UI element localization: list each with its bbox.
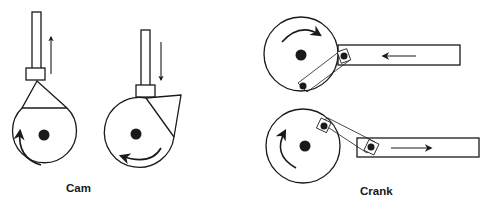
cam-falling: [104, 30, 181, 167]
crank-pushing: [266, 109, 479, 183]
crank-label: Crank: [360, 185, 393, 197]
crank-pin: [300, 83, 307, 90]
crank-pulling: [264, 17, 460, 92]
wheel-axle: [300, 141, 311, 152]
cam-rising: [13, 12, 77, 165]
follower-rod: [32, 12, 41, 69]
wheel-axle: [296, 50, 307, 61]
cam-shaft: [131, 129, 142, 140]
cam-label: Cam: [66, 182, 91, 194]
follower-block: [26, 68, 45, 80]
crank-pin: [321, 123, 328, 130]
rod-pin: [341, 53, 348, 60]
cam-shaft: [39, 130, 50, 141]
cam-crank-diagram: [0, 0, 492, 209]
follower-block: [136, 85, 155, 97]
rod-pin: [368, 144, 375, 151]
follower-rod: [141, 30, 150, 86]
slider-bar: [338, 45, 460, 65]
